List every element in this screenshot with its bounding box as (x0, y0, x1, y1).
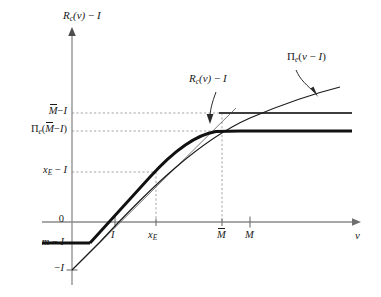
x-tick-label-M: M (245, 229, 254, 240)
y-tick-label-zero: 0 (0, 213, 64, 224)
I-glyph-7: I (223, 72, 227, 84)
y-axis-title: Rc(v) − I (63, 9, 101, 23)
guide-lines-group (72, 113, 222, 222)
y-tick-label-pi-mtilde-minus-I: Πe(M−I) (0, 123, 67, 136)
y-tick-label-m-minus-I: m − I (0, 236, 64, 247)
mtilde-glyph: M (49, 105, 58, 116)
minus-sign-7: − (211, 72, 223, 84)
figure-canvas: Rc(v) − I v M−I Πe(M−I) xE − I 0 m − I −… (0, 0, 381, 297)
rc-curve-rise-plateau (90, 131, 352, 243)
x-tick-label-xE: xE (148, 229, 157, 242)
minus-sign-4: − (49, 236, 60, 247)
pi-e-curve (72, 87, 340, 270)
I-glyph-5: I (61, 262, 65, 273)
y-tick-label-mtilde-minus-I: M−I (0, 105, 67, 116)
pi-glyph-2: Π (287, 50, 295, 62)
axes-group (42, 27, 361, 285)
x-tick-label-Mtilde: M (217, 229, 226, 240)
x-axis-arrowhead (352, 218, 361, 226)
mtilde-glyph-3: M (217, 229, 226, 240)
y-axis-title-I: I (97, 9, 101, 21)
minus-sign-6: − (307, 50, 319, 62)
x-sub-E-2: E (153, 233, 158, 242)
y-axis-title-tail: − (85, 9, 97, 21)
paren-close-1: ) (64, 123, 68, 134)
figure-svg (0, 0, 381, 297)
I-glyph-4: I (61, 236, 65, 247)
rc-annotation-leader (207, 92, 216, 124)
R-glyph-2: R (189, 72, 196, 84)
y-axis-arrowhead (68, 27, 76, 36)
y-axis-title-arg: (v) (73, 9, 85, 21)
x-tick-label-I: I (111, 229, 115, 240)
x-axis-title: v (355, 229, 360, 241)
v-arg-2: (v) (199, 72, 211, 84)
minus-sign-3: − (52, 164, 63, 175)
annotation-rc-curve: Rc(v) − I (189, 72, 227, 86)
annotation-pi-e-curve: Πe(v − I) (287, 50, 326, 64)
rc-curve-group (42, 131, 352, 243)
I-glyph-1: I (64, 105, 68, 116)
I-glyph-3: I (64, 164, 68, 175)
pi-e-annotation-leader (296, 70, 318, 97)
y-axis-title-text: R (63, 9, 70, 21)
y-tick-label-xE-minus-I: xE − I (0, 164, 67, 177)
rc-leader-arrowhead (207, 114, 214, 124)
y-tick-label-minus-I: −I (0, 262, 64, 273)
paren-close-2: ) (322, 50, 326, 62)
mtilde-glyph-2: M (45, 123, 54, 134)
